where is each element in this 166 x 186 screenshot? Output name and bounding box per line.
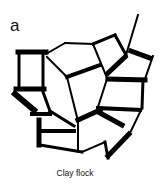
clay-particle-thick — [108, 79, 145, 80]
clay-particle-thick — [131, 51, 150, 58]
clay-flock-diagram — [0, 0, 166, 186]
clay-particle-thin — [82, 142, 105, 152]
clay-particle-thick — [108, 57, 125, 73]
clay-particle-thick — [15, 94, 34, 110]
clay-particle-thin — [43, 92, 50, 111]
clay-particle-thin — [67, 77, 78, 121]
clay-particle-thick — [78, 110, 100, 120]
figure-caption: Clay flock — [0, 168, 150, 178]
clay-particle-thin — [50, 111, 74, 126]
clay-particle-thin — [93, 35, 115, 44]
clay-particle-thick — [67, 65, 100, 77]
clay-particle-thin — [40, 145, 82, 152]
clay-particle-thick — [98, 108, 140, 110]
clay-particle-thick — [100, 113, 122, 125]
clay-particle-thin — [46, 43, 65, 54]
clay-particle-thin — [47, 57, 67, 77]
clay-particle-thin — [142, 80, 143, 108]
clay-particle-thin — [93, 44, 107, 78]
clay-particle-thin — [115, 35, 126, 55]
clay-particle-thick — [108, 134, 129, 156]
clay-particle-thin — [65, 43, 93, 44]
clay-particle-thin — [97, 79, 107, 110]
